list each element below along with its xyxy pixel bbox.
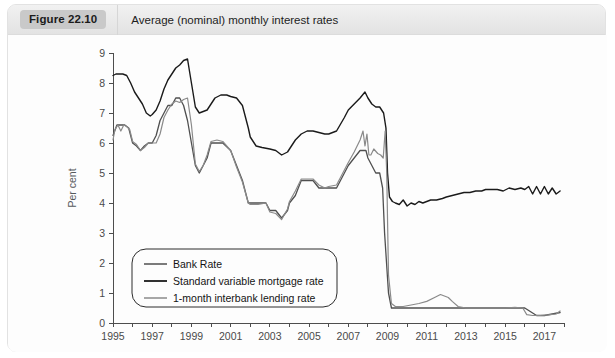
y-tick-label: 0 [99, 317, 105, 329]
x-tick-label: 2005 [297, 330, 321, 342]
y-tick-label: 8 [99, 77, 105, 89]
y-tick-label: 5 [99, 167, 105, 179]
y-tick-label: 2 [99, 257, 105, 269]
x-tick-label: 2001 [219, 330, 243, 342]
y-tick-label: 3 [99, 227, 105, 239]
caption-divider [117, 5, 118, 35]
figure-number-badge: Figure 22.10 [20, 10, 106, 29]
x-tick-label: 2017 [533, 330, 557, 342]
x-axis: 1995199719992001200320052007200920112013… [101, 323, 564, 342]
x-tick-label: 2013 [454, 330, 478, 342]
y-tick-label: 4 [99, 197, 105, 209]
x-tick-label: 2015 [493, 330, 517, 342]
y-tick-label: 7 [99, 107, 105, 119]
x-tick-label: 2007 [337, 330, 361, 342]
y-tick-label: 9 [99, 47, 105, 59]
x-tick-label: 1997 [141, 330, 165, 342]
chart-legend: Bank RateStandard variable mortgage rate… [132, 249, 337, 307]
figure-caption-bar: Figure 22.10 Average (nominal) monthly i… [8, 5, 605, 35]
y-axis-title: Per cent [66, 168, 78, 207]
y-tick-label: 1 [99, 287, 105, 299]
y-axis: 0123456789Per cent [66, 47, 113, 329]
interest-rates-line-chart: 0123456789Per cent 199519971999200120032… [8, 35, 607, 352]
x-tick-label: 1995 [101, 330, 125, 342]
x-tick-label: 2003 [258, 330, 282, 342]
legend-label: Bank Rate [173, 258, 222, 270]
x-tick-label: 1999 [180, 330, 204, 342]
chart-plot-area: 0123456789Per cent 199519971999200120032… [8, 35, 607, 352]
legend-label: 1-month interbank lending rate [173, 292, 316, 304]
x-tick-label: 2009 [376, 330, 400, 342]
x-tick-label: 2011 [415, 330, 438, 342]
y-tick-label: 6 [99, 137, 105, 149]
figure-card: Figure 22.10 Average (nominal) monthly i… [7, 4, 606, 352]
legend-label: Standard variable mortgage rate [173, 275, 324, 287]
figure-title: Average (nominal) monthly interest rates [131, 14, 338, 26]
